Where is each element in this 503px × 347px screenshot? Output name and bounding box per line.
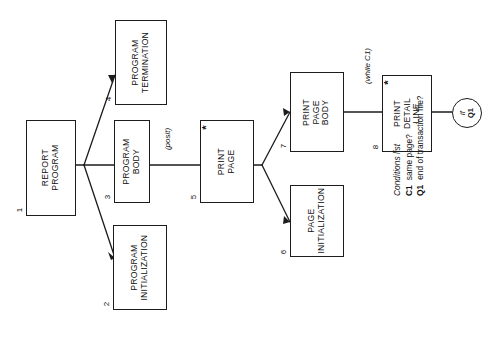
node-label: PROGRAM TERMINATION <box>131 32 150 93</box>
node-number-8: 8 <box>372 145 380 149</box>
node-label: PROGRAM BODY <box>122 138 141 184</box>
node-number-4: 4 <box>105 97 113 101</box>
condition-code: Q1 <box>415 185 425 196</box>
node-print-page[interactable]: * PRINT PAGE <box>200 120 254 203</box>
terminal-label: if Q1 <box>459 108 475 118</box>
node-number-1: 1 <box>16 208 24 212</box>
condition-row-q1: Q1end of transaction file? <box>415 46 426 196</box>
condition-row-c1: C1same page? <box>404 46 415 196</box>
iteration-asterisk-icon: * <box>202 125 211 129</box>
node-program-termination[interactable]: PROGRAM TERMINATION <box>115 20 167 105</box>
node-label: PAGE INITIALIZATION <box>307 188 326 254</box>
node-number-2: 2 <box>103 302 111 306</box>
node-program-initialization[interactable]: PROGRAM INITIALIZATION <box>113 225 167 310</box>
terminal-condition: Q1 <box>467 108 475 118</box>
terminal-if-q1[interactable]: if Q1 <box>452 98 482 128</box>
node-label: PRINT PAGE <box>217 148 236 175</box>
condition-code: C1 <box>404 185 414 196</box>
node-label: REPORT PROGRAM <box>41 145 60 191</box>
node-number-3: 3 <box>104 195 112 199</box>
node-report-program[interactable]: REPORT PROGRAM <box>26 120 76 216</box>
node-print-page-body[interactable]: PRINT PAGE BODY <box>290 72 344 152</box>
condition-text: same page? <box>404 134 414 180</box>
node-label: PROGRAM INITIALIZATION <box>130 235 149 301</box>
node-number-6: 6 <box>280 250 288 254</box>
node-program-body[interactable]: PROGRAM BODY <box>114 120 150 203</box>
node-number-5: 5 <box>190 195 198 199</box>
node-number-7: 7 <box>280 144 288 148</box>
node-label: PRINT PAGE BODY <box>303 98 332 125</box>
conditions-list-title: Conditions list <box>392 46 402 196</box>
conditions-list: Conditions list C1same page? Q1end of tr… <box>392 46 425 196</box>
condition-text: end of transaction file? <box>415 96 425 180</box>
node-page-initialization[interactable]: PAGE INITIALIZATION <box>290 185 344 257</box>
edge-label-posit: (posit) <box>164 128 172 150</box>
edge-label-while-c1: (while C1) <box>364 48 372 84</box>
